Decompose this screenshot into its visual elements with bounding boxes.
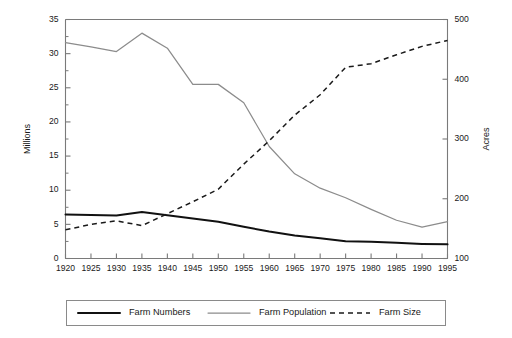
x-tick-label: 1925 xyxy=(81,263,100,273)
y2-tick-label: 500 xyxy=(455,14,470,24)
x-tick-label: 1940 xyxy=(158,263,177,273)
y2-tick-label: 400 xyxy=(455,74,470,84)
y-tick-label: 5 xyxy=(54,219,59,229)
x-tick-label: 1965 xyxy=(285,263,304,273)
x-tick-label: 1950 xyxy=(209,263,228,273)
y-tick-label: 25 xyxy=(49,82,59,92)
y-tick-label: 20 xyxy=(49,116,59,126)
chart-background xyxy=(0,0,512,338)
legend-label-farm-numbers: Farm Numbers xyxy=(129,307,191,317)
y2-tick-label: 300 xyxy=(455,133,470,143)
farm-trends-line-chart: 05101520253035 100200300400500 192019251… xyxy=(0,0,512,338)
chart-legend: Farm NumbersFarm PopulationFarm Size xyxy=(67,301,446,326)
chart-figure: 05101520253035 100200300400500 192019251… xyxy=(0,0,512,338)
y-tick-label: 35 xyxy=(49,14,59,24)
y2-tick-label: 200 xyxy=(455,193,470,203)
y-axis-title: Millions xyxy=(22,124,32,155)
x-tick-label: 1945 xyxy=(183,263,202,273)
x-tick-label: 1920 xyxy=(56,263,75,273)
y-tick-label: 30 xyxy=(49,48,59,58)
legend-label-farm-population: Farm Population xyxy=(259,307,326,317)
x-tick-label: 1980 xyxy=(362,263,381,273)
x-tick-label: 1975 xyxy=(336,263,355,273)
x-tick-label: 1990 xyxy=(412,263,431,273)
x-tick-label: 1970 xyxy=(311,263,330,273)
x-tick-label: 1985 xyxy=(387,263,406,273)
x-tick-label: 1930 xyxy=(107,263,126,273)
x-tick-label: 1935 xyxy=(132,263,151,273)
x-tick-label: 1995 xyxy=(438,263,457,273)
x-tick-label: 1955 xyxy=(234,263,253,273)
y-tick-label: 10 xyxy=(49,184,59,194)
x-tick-label: 1960 xyxy=(260,263,279,273)
y2-axis-title: Acres xyxy=(481,127,491,151)
y-tick-label: 15 xyxy=(49,150,59,160)
y2-tick-label: 100 xyxy=(455,253,470,263)
y-tick-label: 0 xyxy=(54,253,59,263)
legend-label-farm-size: Farm Size xyxy=(379,307,421,317)
